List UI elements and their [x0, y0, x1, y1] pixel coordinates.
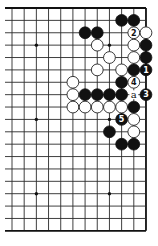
white-stone-icon [67, 76, 79, 88]
white-stone [67, 76, 79, 88]
white-stone-icon [91, 64, 103, 76]
black-stone-icon [116, 138, 128, 150]
white-stone-icon [91, 39, 103, 51]
black-stone [116, 138, 128, 150]
black-stone-icon [79, 89, 91, 101]
white-stone-move-2: 2 [128, 27, 140, 39]
black-stone-move-1: 1 [140, 64, 152, 76]
white-stone [91, 39, 103, 51]
black-stone [128, 101, 140, 113]
black-stone-icon [91, 89, 103, 101]
white-stone-icon [128, 114, 140, 126]
point-label-a: a [131, 89, 137, 100]
star-point [108, 118, 111, 121]
move-number: 2 [131, 29, 137, 38]
black-stone [128, 14, 140, 26]
black-stone-move-3: 3 [140, 89, 152, 101]
star-point [35, 118, 38, 121]
white-stone-icon [67, 89, 79, 101]
white-stone [91, 64, 103, 76]
black-stone [91, 89, 103, 101]
black-stone-icon [128, 101, 140, 113]
black-stone-icon [79, 27, 91, 39]
white-stone-icon [116, 101, 128, 113]
black-stone-icon [116, 76, 128, 88]
white-stone [104, 52, 116, 64]
white-stone [128, 114, 140, 126]
white-stone [67, 101, 79, 113]
white-stone-move-4: 4 [128, 76, 140, 88]
black-stone [116, 89, 128, 101]
white-stone-icon [116, 64, 128, 76]
white-stone-icon [140, 27, 152, 39]
white-stone [104, 101, 116, 113]
star-point [35, 192, 38, 195]
black-stone-icon [128, 14, 140, 26]
black-stone [79, 89, 91, 101]
white-stone-icon [128, 126, 140, 138]
white-stone [128, 52, 140, 64]
black-stone-icon [104, 89, 116, 101]
white-stone [67, 89, 79, 101]
star-point [35, 43, 38, 46]
black-stone-icon [128, 64, 140, 76]
white-stone [128, 126, 140, 138]
black-stone-icon [128, 138, 140, 150]
white-stone [79, 101, 91, 113]
white-stone-icon [104, 52, 116, 64]
white-stone [128, 39, 140, 51]
black-stone [128, 64, 140, 76]
white-stone-icon [79, 101, 91, 113]
white-stone-icon [67, 101, 79, 113]
black-stone-icon [104, 126, 116, 138]
black-stone-move-5: 5 [116, 114, 128, 126]
star-point [108, 43, 111, 46]
black-stone [104, 126, 116, 138]
black-stone-icon [91, 27, 103, 39]
black-stone [140, 52, 152, 64]
white-stone [140, 27, 152, 39]
white-stone [91, 101, 103, 113]
white-stone-icon [91, 101, 103, 113]
black-stone [104, 89, 116, 101]
black-stone-icon [140, 39, 152, 51]
black-stone-icon [116, 89, 128, 101]
white-stone [116, 101, 128, 113]
black-stone-icon [116, 14, 128, 26]
move-number: 5 [119, 115, 125, 124]
move-number: 1 [143, 66, 149, 75]
black-stone [91, 27, 103, 39]
black-stone [128, 138, 140, 150]
move-number: 4 [131, 78, 137, 87]
go-board-diagram: a 21435 [0, 0, 158, 246]
black-stone-icon [140, 52, 152, 64]
white-stone-icon [128, 39, 140, 51]
black-stone [79, 27, 91, 39]
black-stone [116, 14, 128, 26]
white-stone [116, 64, 128, 76]
white-stone-icon [128, 52, 140, 64]
white-stone-icon [104, 101, 116, 113]
black-stone [116, 76, 128, 88]
move-number: 3 [143, 90, 149, 99]
star-point [108, 192, 111, 195]
board-markers: a [129, 89, 138, 100]
black-stone [140, 39, 152, 51]
